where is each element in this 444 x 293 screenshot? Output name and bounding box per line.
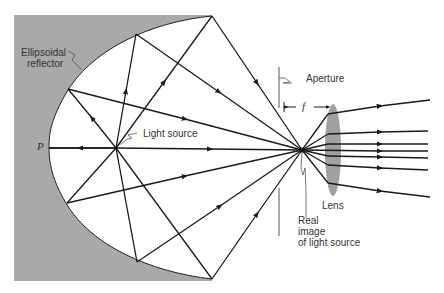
focal-length-label: f [302, 101, 305, 112]
rays [49, 16, 430, 279]
reflector-label-2: reflector [27, 58, 63, 69]
point-p-label: P [37, 141, 44, 152]
optical-diagram: Ellipsoidal reflector P Light source Ape… [0, 0, 444, 293]
reflector-label-1: Ellipsoidal [21, 47, 66, 58]
aperture-label: Aperture [306, 73, 344, 84]
real-image-label-3: of light source [298, 237, 360, 248]
light-source-point [114, 146, 118, 150]
light-source-label: Light source [143, 128, 197, 139]
real-image-label-2: image [298, 226, 325, 237]
real-image-point [300, 148, 305, 153]
real-image-label-1: Real [298, 215, 319, 226]
focal-length-dimension [284, 102, 328, 112]
diagram-canvas [0, 0, 444, 293]
lens-label: Lens [322, 200, 344, 211]
